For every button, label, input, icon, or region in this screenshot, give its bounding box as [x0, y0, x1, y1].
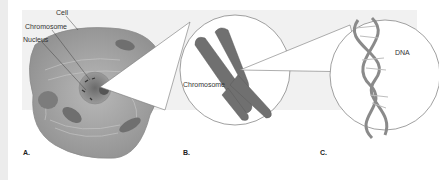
callout-chromosome-a: Chromosome	[25, 23, 67, 30]
panel-label-a: A.	[23, 149, 30, 156]
callout-chromosome-b: Chromosome	[183, 81, 225, 88]
panel-label-c: C.	[320, 149, 327, 156]
callout-nucleus: Nucleus	[23, 36, 48, 43]
dna-illustration	[330, 18, 439, 138]
callout-cell: Cell	[56, 9, 68, 16]
callout-dna: DNA	[395, 49, 410, 56]
panel-label-b: B.	[183, 149, 190, 156]
